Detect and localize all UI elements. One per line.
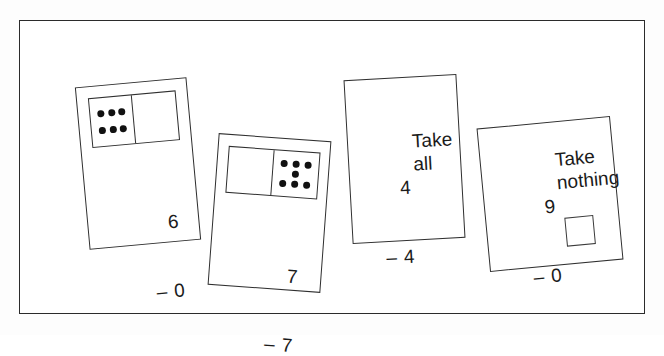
domino-half-right (271, 150, 319, 198)
math-card[interactable]: 4 –4 Take all (344, 74, 466, 244)
page-frame: 6 –0 7 –7 4 –4 Take all (19, 20, 645, 314)
instruction-line-2: all (413, 150, 454, 175)
instruction-line-2: nothing (556, 165, 620, 194)
minus-sign: – (533, 266, 546, 288)
minus-sign: – (156, 281, 168, 303)
minuend: 4 (354, 176, 411, 202)
instruction-text: Take all (411, 127, 454, 175)
domino-pip (303, 181, 310, 188)
domino-tile (88, 90, 180, 148)
math-card[interactable]: 7 –7 (208, 133, 332, 293)
answer-box[interactable] (564, 215, 596, 247)
subtrahend-row: –7 (226, 329, 294, 356)
minus-sign: – (386, 247, 398, 269)
math-card[interactable]: 6 –0 (75, 77, 201, 249)
domino-pip (291, 180, 298, 187)
domino-pip (304, 162, 311, 169)
domino-pip (99, 127, 107, 135)
domino-half-right (132, 91, 179, 143)
subtrahend: 0 (550, 264, 563, 286)
domino-pip (109, 126, 117, 134)
subtrahend-row: –4 (358, 245, 415, 271)
minuend: 7 (231, 260, 299, 288)
math-card[interactable]: 9 –0 Take nothing (477, 116, 624, 272)
subtrahend: 0 (173, 279, 185, 301)
domino-pip (292, 171, 299, 178)
domino-half-left (89, 95, 136, 147)
subtrahend: 4 (403, 246, 415, 268)
domino-pip (118, 108, 126, 116)
instruction-line-1: Take (411, 127, 452, 152)
subtraction-problem: 4 –4 (351, 130, 417, 317)
domino-pip (292, 161, 299, 168)
domino-pip (281, 160, 288, 167)
subtrahend: 7 (281, 334, 293, 356)
domino-pip (279, 180, 286, 187)
subtrahend-row: –0 (505, 263, 563, 291)
subtrahend-row: –0 (120, 278, 186, 307)
minuend: 9 (498, 195, 556, 223)
domino-pip (97, 110, 105, 118)
domino-tile (225, 146, 320, 200)
minus-sign: – (264, 333, 276, 355)
domino-pip (119, 125, 127, 133)
domino-half-left (226, 147, 274, 195)
instruction-text: Take nothing (554, 143, 620, 195)
subtraction-problem: 6 –0 (109, 164, 189, 353)
minuend: 6 (114, 210, 180, 239)
subtraction-problem: 7 –7 (222, 215, 301, 356)
domino-pip (107, 109, 115, 117)
